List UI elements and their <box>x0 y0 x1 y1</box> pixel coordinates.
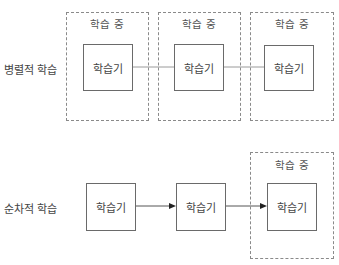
learner-box: 학습기 <box>176 183 226 231</box>
learner-box: 학습기 <box>83 44 133 91</box>
training-caption: 학습 중 <box>66 16 148 31</box>
learner-box: 학습기 <box>86 183 136 231</box>
training-caption: 학습 중 <box>251 157 333 172</box>
learner-box: 학습기 <box>267 183 317 231</box>
learner-box: 학습기 <box>264 45 314 91</box>
learner-box: 학습기 <box>174 44 224 91</box>
sequential-learning-label: 순차적 학습 <box>4 200 58 216</box>
parallel-learning-label: 병렬적 학습 <box>4 61 58 77</box>
training-caption: 학습 중 <box>251 16 333 31</box>
training-caption: 학습 중 <box>158 16 240 31</box>
